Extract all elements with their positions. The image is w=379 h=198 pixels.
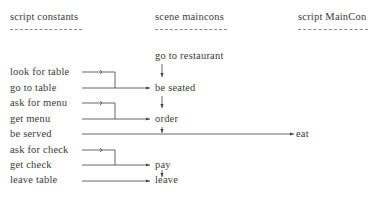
connector-lines (0, 0, 379, 198)
